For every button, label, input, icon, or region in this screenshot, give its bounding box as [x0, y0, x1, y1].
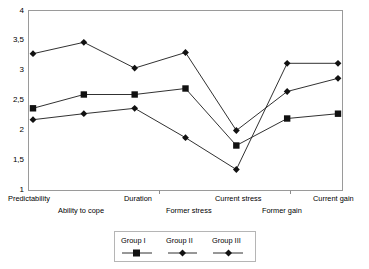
- legend-label-group-iii: Group III: [212, 236, 241, 245]
- y-tick-label-3-5: 3,5: [13, 35, 25, 44]
- legend-sample-group-iii: [213, 250, 243, 257]
- legend-sample-group-i: [122, 250, 152, 257]
- x-label-current-stress: Current stress: [215, 194, 262, 203]
- square-marker: [182, 85, 188, 91]
- legend-label-group-i: Group I: [121, 236, 146, 245]
- diamond-marker: [233, 166, 240, 173]
- y-tick-label-3: 3: [20, 65, 25, 74]
- square-marker: [131, 91, 137, 97]
- x-label-former-gain: Former gain: [262, 206, 302, 215]
- diamond-marker: [30, 50, 37, 57]
- diamond-marker: [179, 250, 186, 257]
- square-marker: [133, 250, 140, 257]
- diamond-marker: [182, 49, 189, 56]
- x-label-current-gain: Current gain: [313, 194, 354, 203]
- plot-area-frame: [29, 11, 343, 191]
- legend-label-group-ii: Group II: [166, 236, 193, 245]
- diamond-marker: [335, 60, 342, 67]
- diamond-marker: [131, 105, 138, 112]
- series-group-iii: [30, 60, 342, 173]
- square-marker: [81, 91, 87, 97]
- line-chart: 4 3,5 3 2,5 2 1,5 1 Predictability Durat…: [0, 0, 369, 269]
- diamond-marker: [284, 60, 291, 67]
- legend-sample-group-ii: [168, 250, 197, 257]
- diamond-marker: [182, 134, 189, 141]
- series-line: [33, 63, 338, 169]
- square-marker: [335, 111, 341, 117]
- diamond-marker: [80, 39, 87, 46]
- x-label-former-stress: Former stress: [166, 206, 212, 215]
- square-marker: [284, 115, 290, 121]
- diamond-marker: [335, 75, 342, 82]
- y-tick-label-1-5: 1,5: [13, 155, 25, 164]
- x-label-duration: Duration: [124, 194, 152, 203]
- square-marker: [233, 142, 239, 148]
- y-tick-label-2-5: 2,5: [13, 95, 25, 104]
- diamond-marker: [30, 116, 37, 123]
- chart-canvas: 4 3,5 3 2,5 2 1,5 1 Predictability Durat…: [0, 0, 369, 269]
- diamond-marker: [225, 250, 232, 257]
- series-layer: [30, 39, 342, 173]
- y-tick-label-2: 2: [20, 125, 25, 134]
- x-label-predictability: Predictability: [8, 194, 50, 203]
- diamond-marker: [80, 110, 87, 117]
- y-tick-label-1: 1: [20, 185, 25, 194]
- x-label-ability-to-cope: Ability to cope: [58, 206, 104, 215]
- y-tick-label-4: 4: [20, 6, 25, 15]
- diamond-marker: [131, 65, 138, 72]
- square-marker: [30, 105, 36, 111]
